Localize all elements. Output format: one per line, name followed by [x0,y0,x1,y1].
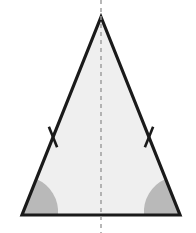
geometry-figure-container: An isosceles triangle shaded light gray,… [0,0,196,233]
isosceles-triangle-diagram [0,0,196,233]
